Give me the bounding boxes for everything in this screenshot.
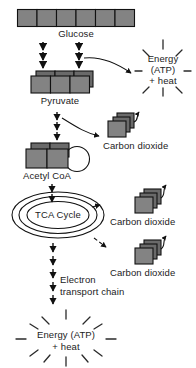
carbon-dioxide-molecule-1 <box>108 112 139 137</box>
energy-top-label-line2: (ATP) <box>151 65 176 76</box>
energy-top-label-line3: + heat <box>149 76 176 87</box>
pyruvate-label: Pyruvate <box>41 96 79 107</box>
glucose-molecule <box>18 10 135 27</box>
cellular-respiration-diagram: Glucose Pyruvate Acetyl CoA TCA Cycle Ca… <box>0 0 196 368</box>
energy-bottom-label-line2: + heat <box>52 342 79 353</box>
glycolysis-arrows <box>43 42 79 68</box>
acetyl-coa-label: Acetyl CoA <box>23 171 71 182</box>
carbon-dioxide-label-2: Carbon dioxide <box>110 217 175 228</box>
tca-co2-arrow-lower <box>94 238 106 247</box>
energy-top-label-line1: Energy <box>148 54 179 65</box>
carbon-dioxide-label-3: Carbon dioxide <box>110 268 175 279</box>
acetyl-coa-molecule <box>26 143 90 172</box>
pyruvate-molecule <box>31 71 93 93</box>
electron-transport-label-line1: Electron <box>60 275 96 286</box>
carbon-dioxide-molecule-3 <box>135 236 166 264</box>
electron-transport-label-line2: transport chain <box>60 287 124 298</box>
tca-cycle-label: TCA Cycle <box>35 210 81 221</box>
carbon-dioxide-molecule-2 <box>135 185 166 213</box>
pyruvate-oxidation-arrows <box>57 112 99 140</box>
carbon-dioxide-label-1: Carbon dioxide <box>103 141 168 152</box>
energy-bottom-label-line1: Energy (ATP) <box>37 330 95 341</box>
glucose-label: Glucose <box>58 29 94 40</box>
tca-co2-arrow-upper <box>92 205 100 207</box>
